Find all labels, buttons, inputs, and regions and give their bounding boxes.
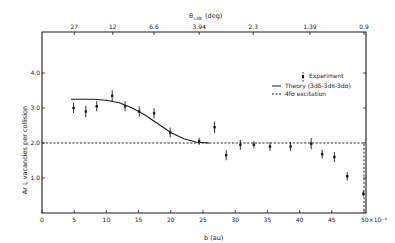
theta-symbol: θ bbox=[189, 12, 193, 20]
x-tick-label: 25 bbox=[199, 216, 207, 223]
plot-border bbox=[42, 32, 366, 213]
data-point bbox=[111, 95, 113, 97]
data-point bbox=[269, 145, 271, 147]
legend-item-theory: Theory (3dδ-3dπ-3dσ) bbox=[272, 82, 351, 90]
data-point bbox=[346, 175, 348, 177]
x-tick-label: 50×10⁻⁴ bbox=[361, 216, 387, 223]
data-point bbox=[85, 110, 87, 112]
bottom-axis: 05101520253035404550×10⁻⁴ bbox=[40, 210, 387, 223]
y-tick-label: 4.0 bbox=[30, 69, 40, 76]
top-tick-label: 3.94 bbox=[192, 23, 206, 30]
plot-frame bbox=[42, 32, 366, 213]
x-tick-label: 30 bbox=[231, 216, 239, 223]
data-point bbox=[96, 105, 98, 107]
top-tick-label: 1.39 bbox=[303, 23, 317, 30]
theta-subscript: LAB bbox=[194, 16, 202, 21]
x-tick-label: 5 bbox=[72, 216, 76, 223]
legend: Experiment Theory (3dδ-3dπ-3dσ) 4fσ exci… bbox=[272, 72, 351, 97]
x-tick-label: 20 bbox=[167, 216, 175, 223]
x-axis-label: b (au) bbox=[204, 234, 223, 242]
legend-item-experiment: Experiment bbox=[302, 72, 344, 82]
excitation-line bbox=[42, 143, 364, 213]
data-point bbox=[289, 145, 291, 147]
x-tick-label: 0 bbox=[40, 216, 44, 223]
y-tick-label: 3.0 bbox=[30, 104, 40, 111]
top-tick-label: 12 bbox=[109, 23, 117, 30]
data-point bbox=[333, 156, 335, 158]
top-tick-label: 2.3 bbox=[248, 23, 258, 30]
legend-item-4f-sigma: 4fσ excitation bbox=[272, 90, 326, 97]
top-tick-label: 6.6 bbox=[149, 23, 159, 30]
theory-curve bbox=[71, 99, 209, 143]
y-tick-label: 2.0 bbox=[30, 139, 40, 146]
series-layer bbox=[42, 90, 365, 213]
x-tick-label: 40 bbox=[296, 216, 304, 223]
data-point bbox=[213, 126, 215, 128]
x-tick-label: 15 bbox=[135, 216, 143, 223]
x-tick-label: 45 bbox=[328, 216, 336, 223]
data-point bbox=[72, 107, 74, 109]
x-tick-label: 35 bbox=[264, 216, 272, 223]
top-axis-label: θ LAB (deg) bbox=[189, 12, 222, 21]
legend-label-4f-sigma: 4fσ excitation bbox=[285, 90, 326, 97]
top-tick-label: 0.9 bbox=[359, 23, 369, 30]
legend-label-theory: Theory (3dδ-3dπ-3dσ) bbox=[284, 82, 351, 90]
vacancy-chart: 27126.63.942.31.390.9 051015202530354045… bbox=[0, 0, 395, 243]
data-point bbox=[253, 144, 255, 146]
legend-label-experiment: Experiment bbox=[309, 72, 344, 80]
y-tick-label: 1.0 bbox=[30, 174, 40, 181]
data-point bbox=[153, 112, 155, 114]
x-tick-label: 10 bbox=[103, 216, 111, 223]
data-point bbox=[239, 144, 241, 146]
top-tick-label: 27 bbox=[70, 23, 78, 30]
top-axis: 27126.63.942.31.390.9 bbox=[70, 23, 369, 35]
data-point bbox=[225, 154, 227, 156]
y-axis-label: Ar L vacancies per collision bbox=[21, 106, 29, 194]
data-point bbox=[321, 153, 323, 155]
theta-unit: (deg) bbox=[205, 12, 222, 20]
